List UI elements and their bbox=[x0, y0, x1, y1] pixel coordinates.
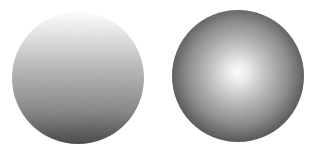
linear-gradient-sphere bbox=[12, 12, 144, 144]
canvas bbox=[0, 0, 315, 152]
radial-gradient-sphere bbox=[172, 10, 304, 142]
